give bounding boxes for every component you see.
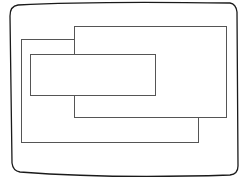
window-front xyxy=(31,55,156,96)
screen-diagram xyxy=(0,0,246,183)
